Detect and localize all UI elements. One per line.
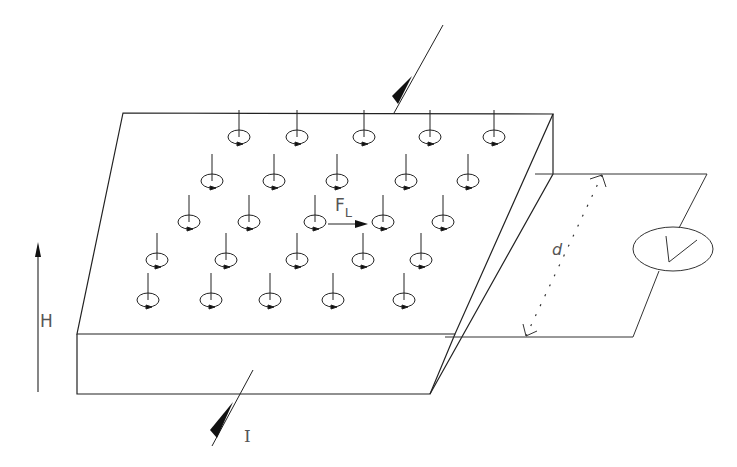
lorentz-force-label: FL xyxy=(335,195,352,218)
current-label: I xyxy=(244,426,251,446)
slab-front-face xyxy=(77,334,455,394)
flux-flow-diagram xyxy=(0,0,737,467)
vortex-icon xyxy=(146,233,168,269)
lorentz-force-arrow xyxy=(328,220,368,228)
vortex-icon xyxy=(353,110,375,146)
vortex-icon xyxy=(137,273,159,309)
vortex-icon xyxy=(393,273,415,309)
voltmeter-v-glyph xyxy=(666,236,697,262)
distance-label: d xyxy=(552,240,562,259)
magnetic-field-label: H xyxy=(40,311,53,331)
vortex-icon xyxy=(228,110,250,146)
vortex-icon xyxy=(263,154,285,190)
lorentz-force-subscript: L xyxy=(345,205,352,220)
distance-indicator xyxy=(523,175,606,336)
vortex-lattice xyxy=(137,110,505,309)
voltmeter-circuit xyxy=(445,174,713,337)
vortex-icon xyxy=(286,233,308,269)
vortex-icon xyxy=(322,273,344,309)
vortex-icon xyxy=(304,195,326,231)
vortex-icon xyxy=(457,154,479,190)
vortex-icon xyxy=(326,154,348,190)
vortex-icon xyxy=(201,154,223,190)
vortex-icon xyxy=(410,233,432,269)
vortex-icon xyxy=(178,195,200,231)
voltmeter-icon xyxy=(633,227,713,271)
vortex-icon xyxy=(215,233,237,269)
vortex-icon xyxy=(395,154,417,190)
vortex-icon xyxy=(259,273,281,309)
vortex-icon xyxy=(352,233,374,269)
vortex-icon xyxy=(483,110,505,146)
vortex-icon xyxy=(286,110,308,146)
lorentz-force-symbol: F xyxy=(335,195,345,215)
vortex-icon xyxy=(432,195,454,231)
vortex-icon xyxy=(200,273,222,309)
superconductor-slab xyxy=(77,113,553,394)
vortex-icon xyxy=(419,110,441,146)
current-arrow-out xyxy=(392,25,443,113)
vortex-icon xyxy=(372,195,394,231)
vortex-icon xyxy=(238,195,260,231)
